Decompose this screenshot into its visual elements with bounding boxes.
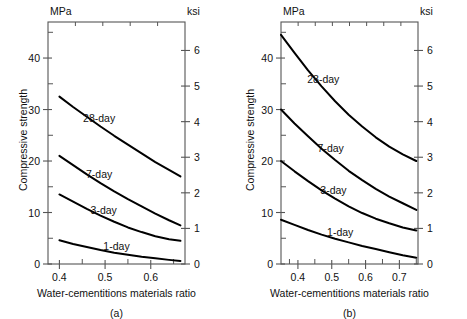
ytick-left-b-40: 40 bbox=[261, 53, 273, 64]
ytick-left-a-0: 0 bbox=[34, 259, 40, 270]
ytick-right-a-5: 5 bbox=[194, 81, 200, 92]
curve-28-day bbox=[59, 97, 180, 177]
xtick-b-0.6: 0.6 bbox=[358, 272, 373, 283]
xtick-b-0.7: 0.7 bbox=[392, 272, 407, 283]
ytick-right-a-0: 0 bbox=[194, 259, 200, 270]
ytick-right-a-4: 4 bbox=[194, 117, 200, 128]
curve-label-b-1-day: 1-day bbox=[327, 227, 353, 238]
chart-panel-a: MPaksi01020304001234560.40.50.6Water-cem… bbox=[0, 0, 233, 317]
ytick-right-b-2: 2 bbox=[427, 188, 433, 199]
xtick-b-0.4: 0.4 bbox=[291, 272, 306, 283]
top-ticks bbox=[298, 22, 401, 26]
ytick-left-b-0: 0 bbox=[267, 259, 273, 270]
curve-7-day bbox=[281, 110, 416, 210]
yaxis-title-a: Compressive strength bbox=[18, 89, 29, 191]
xaxis-title-a: Water-cementitions materials ratio bbox=[37, 288, 196, 299]
ytick-left-a-20: 20 bbox=[28, 156, 40, 167]
curve-label-a-3-day: 3-day bbox=[91, 205, 117, 216]
curve-label-b-28-day: 28-day bbox=[307, 74, 339, 85]
ytick-right-a-3: 3 bbox=[194, 152, 200, 163]
unit-label-ksi-a: ksi bbox=[187, 6, 200, 17]
ytick-right-a-6: 6 bbox=[194, 45, 200, 56]
curve-label-a-28-day: 28-day bbox=[83, 113, 115, 124]
ytick-left-b-20: 20 bbox=[261, 156, 273, 167]
panel-caption-a: (a) bbox=[110, 308, 123, 319]
panel-caption-b: (b) bbox=[343, 308, 356, 319]
curve-label-b-7-day: 7-day bbox=[318, 143, 344, 154]
unit-label-mpa-a: MPa bbox=[50, 6, 72, 17]
ytick-left-a-40: 40 bbox=[28, 53, 40, 64]
yaxis-title-b: Compressive strength bbox=[245, 89, 256, 191]
ytick-right-b-5: 5 bbox=[427, 81, 433, 92]
ytick-left-b-30: 30 bbox=[261, 105, 273, 116]
unit-label-mpa-b: MPa bbox=[283, 6, 305, 17]
ytick-right-b-4: 4 bbox=[427, 117, 433, 128]
series-group bbox=[59, 97, 180, 261]
xtick-b-0.5: 0.5 bbox=[324, 272, 339, 283]
ytick-right-a-1: 1 bbox=[194, 223, 200, 234]
xaxis-title-b: Water-cementitions materials ratio bbox=[270, 288, 429, 299]
curve-28-day bbox=[281, 35, 416, 161]
curve-label-b-3-day: 3-day bbox=[320, 185, 346, 196]
series-group bbox=[281, 35, 416, 258]
curve-label-a-7-day: 7-day bbox=[86, 169, 112, 180]
ytick-right-b-0: 0 bbox=[427, 259, 433, 270]
ytick-right-b-1: 1 bbox=[427, 223, 433, 234]
ytick-left-b-10: 10 bbox=[261, 208, 273, 219]
ytick-right-a-2: 2 bbox=[194, 188, 200, 199]
xtick-a-0.4: 0.4 bbox=[52, 272, 67, 283]
ytick-right-b-6: 6 bbox=[427, 45, 433, 56]
xtick-a-0.6: 0.6 bbox=[143, 272, 158, 283]
curve-label-a-1-day: 1-day bbox=[103, 241, 129, 252]
ytick-left-a-30: 30 bbox=[28, 105, 40, 116]
ytick-right-b-3: 3 bbox=[427, 152, 433, 163]
ytick-left-a-10: 10 bbox=[28, 208, 40, 219]
axis-frame bbox=[48, 22, 185, 264]
top-ticks bbox=[75, 22, 157, 26]
xtick-a-0.5: 0.5 bbox=[98, 272, 113, 283]
chart-panel-b: MPaksi01020304001234560.40.50.60.7Water-… bbox=[233, 0, 466, 317]
unit-label-ksi-b: ksi bbox=[420, 6, 433, 17]
